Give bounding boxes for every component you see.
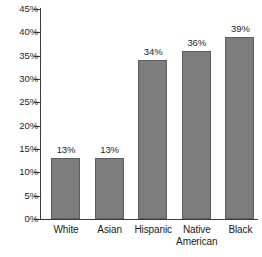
bar[interactable] xyxy=(225,37,254,219)
x-axis-category-label: Black xyxy=(210,224,262,236)
bars-layer: 13%13%34%36%39% xyxy=(0,0,262,257)
bar-value-label: 34% xyxy=(131,47,175,57)
bar[interactable] xyxy=(95,158,124,219)
bar-chart: 45%40%35%30%25%20%15%10%5%0% 13%13%34%36… xyxy=(0,0,262,257)
bar-value-label: 39% xyxy=(218,24,262,34)
bar[interactable] xyxy=(182,51,211,219)
bar[interactable] xyxy=(51,158,80,219)
bar-value-label: 36% xyxy=(175,38,219,48)
bar[interactable] xyxy=(138,60,167,219)
bar-value-label: 13% xyxy=(88,145,132,155)
bar-value-label: 13% xyxy=(44,145,88,155)
